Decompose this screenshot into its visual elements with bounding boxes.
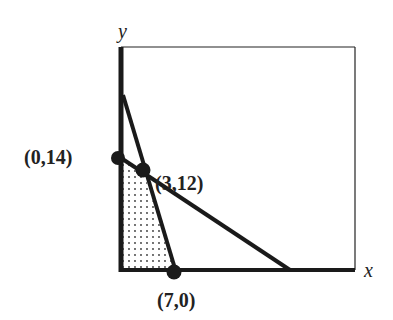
label-point-0-14: (0,14) — [24, 146, 72, 169]
point-7-0 — [167, 265, 182, 280]
label-point-3-12: (3,12) — [155, 172, 203, 195]
label-point-7-0: (7,0) — [157, 289, 195, 312]
feasible-region-diagram: (0,14) (3,12) (7,0) y x — [0, 0, 393, 320]
point-3-12 — [136, 163, 151, 178]
point-0-14 — [111, 151, 125, 165]
x-axis-label: x — [363, 259, 373, 281]
y-axis-label: y — [116, 20, 127, 43]
